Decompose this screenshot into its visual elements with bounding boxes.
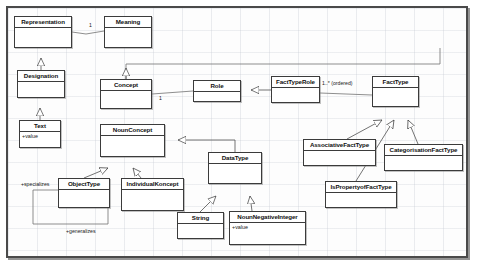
class-attributes [101,91,151,99]
assoc-facttyperole-facttype [320,93,372,95]
class-attributes [272,88,319,96]
class-name: IsPropertyofFactType [326,182,396,193]
class-name: DataType [209,153,261,164]
class-string[interactable]: String [177,212,224,239]
class-name: Role [194,81,240,92]
class-individualkoncept[interactable]: IndividualKoncept [121,178,184,211]
class-categorisationfacttype[interactable]: CategorisationFactType [384,144,463,171]
class-concept[interactable]: Concept [100,79,152,109]
gen-datatype-nounconcept [178,140,235,152]
class-attributes [15,28,71,36]
multiplicity-facttyperole: 1..* (ordered) [322,80,353,86]
uml-class-diagram: Representation Meaning Designation Text … [0,0,480,270]
label-specializes: +specializes [21,181,49,187]
gen-categorisationfacttype-facttype [408,120,418,144]
label-generalizes: +generalizes [66,228,96,234]
assoc-representation-meaning [72,31,104,34]
class-objecttype[interactable]: ObjectType [58,178,110,208]
class-attributes [326,193,396,201]
class-attributes [304,151,375,159]
class-meaning[interactable]: Meaning [104,16,152,48]
class-name: FactType [373,77,418,88]
class-attributes [373,88,418,96]
class-attributes: +value [230,223,305,231]
class-name: NounNegativeInteger [230,212,305,223]
class-attributes [385,156,462,164]
gen-string-datatype [200,196,216,212]
class-name: Concept [101,80,151,91]
class-name: IndividualKoncept [122,179,183,190]
class-attributes: +value [20,132,60,140]
class-name: ObjectType [59,179,109,190]
class-name: String [178,213,223,224]
gen-associativefacttype-facttype [347,120,382,139]
class-text[interactable]: Text +value [19,120,61,148]
class-role[interactable]: Role [193,80,241,102]
class-name: Meaning [105,17,151,28]
class-designation[interactable]: Designation [17,70,65,98]
multiplicity-meaning: 1 [89,22,92,28]
class-representation[interactable]: Representation [14,16,72,48]
class-attributes [59,190,109,198]
class-name: CategorisationFactType [385,145,462,156]
class-facttype[interactable]: FactType [372,76,419,107]
multiplicity-concept-role: 1 [159,95,162,101]
gen-nounnegativeinteger-datatype [250,196,252,211]
class-associativefacttype[interactable]: AssociativeFactType [303,139,376,166]
class-name: AssociativeFactType [304,140,375,151]
class-nounnegativeinteger[interactable]: NounNegativeInteger +value [229,211,306,245]
class-nounconcept[interactable]: NounConcept [100,124,165,157]
class-attributes [105,28,151,36]
assoc-concept-role [152,91,193,94]
class-attributes [122,190,183,198]
gen-concept-meaning [126,48,440,79]
gen-individualkoncept-nounconcept [133,168,141,178]
class-name: Representation [15,17,71,28]
class-attributes [18,82,64,90]
class-name: NounConcept [101,125,164,136]
class-attributes [209,164,261,172]
class-name: Text [20,121,60,132]
class-facttyperole[interactable]: FactTypeRole [271,76,320,103]
class-datatype[interactable]: DataType [208,152,262,184]
class-attributes [194,92,240,100]
class-attributes [101,136,164,144]
diagram-canvas: Representation Meaning Designation Text … [0,0,480,270]
gen-objecttype-nounconcept [84,168,108,178]
class-attributes [178,224,223,232]
class-name: FactTypeRole [272,77,319,88]
class-ispropertyoffacttype[interactable]: IsPropertyofFactType [325,181,397,208]
class-name: Designation [18,71,64,82]
